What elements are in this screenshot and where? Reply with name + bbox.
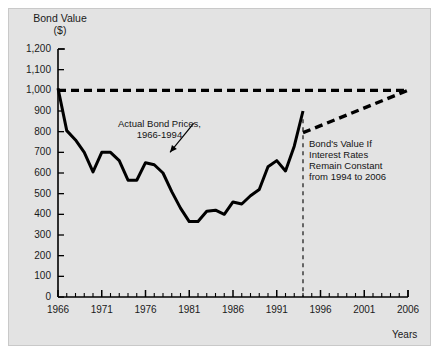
y-tick-label: 1,100 [11, 64, 51, 75]
x-axis-title: Years [392, 329, 417, 341]
annotation-actual-bond-prices: Actual Bond Prices, 1966-1994 [118, 118, 201, 140]
y-tick-label: 100 [11, 270, 51, 281]
x-tick-label: 1976 [126, 304, 166, 315]
x-tick-label: 1981 [169, 304, 209, 315]
annotation-projected-value: Bond's Value If Interest Rates Remain Co… [309, 138, 386, 182]
y-tick-label: 500 [11, 188, 51, 199]
x-tick-label: 1971 [82, 304, 122, 315]
x-tick-label: 1996 [301, 304, 341, 315]
chart-figure: Bond Value ($) Years Actual Bond Prices,… [0, 0, 439, 354]
series-dashed [303, 90, 408, 132]
x-tick-label: 2006 [388, 304, 428, 315]
y-tick-label: 300 [11, 229, 51, 240]
y-tick-label: 200 [11, 250, 51, 261]
y-tick-label: 0 [11, 291, 51, 302]
x-tick-label: 1991 [257, 304, 297, 315]
y-tick-label: 1,200 [11, 43, 51, 54]
series-solid [58, 88, 303, 221]
y-tick-label: 600 [11, 167, 51, 178]
y-tick-label: 900 [11, 105, 51, 116]
y-tick-label: 400 [11, 208, 51, 219]
x-tick-label: 2001 [344, 304, 384, 315]
y-axis-title: Bond Value ($) [22, 12, 98, 36]
x-tick-label: 1986 [213, 304, 253, 315]
y-tick-label: 1,000 [11, 84, 51, 95]
y-tick-label: 800 [11, 126, 51, 137]
y-tick-label: 700 [11, 146, 51, 157]
x-tick-label: 1966 [38, 304, 78, 315]
